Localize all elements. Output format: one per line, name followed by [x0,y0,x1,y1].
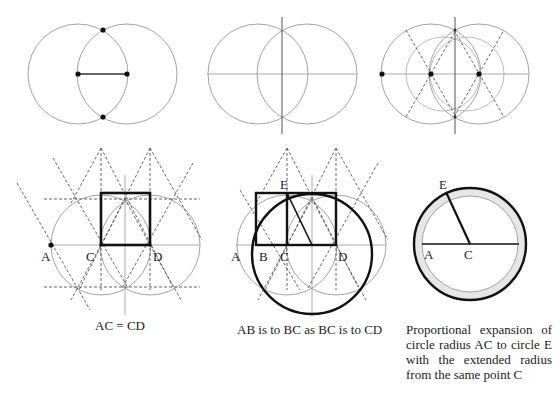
caption-proportional-expansion: Proportional expansion of circle radius … [406,322,552,382]
label-e: E [439,177,447,192]
point-bottom-intersection [100,114,105,119]
point-top-intersection [100,27,105,32]
point-right-center [124,71,129,76]
label-a: A [231,249,241,264]
label-c: C [280,249,289,264]
figure-proportional-expansion: E A C [414,177,526,300]
figure-square-construction: A C D [17,148,202,315]
label-d: D [338,249,347,264]
point-left-edge [379,71,384,76]
label-c: C [464,247,473,262]
point-a [48,242,53,247]
caption-golden-ratio: AB is to BC as BC is to CD [237,322,387,337]
point-left-center [428,71,433,76]
label-c: C [86,249,95,264]
label-a: A [41,249,51,264]
label-d: D [153,249,162,264]
figure-vesica-axes [207,17,357,134]
figure-golden-ratio-construction: E A B C D [231,148,388,316]
point-right-center [476,71,481,76]
label-b: B [259,249,268,264]
caption-square-construction: AC = CD [95,318,215,333]
label-e: E [280,177,288,192]
point-left-center [75,71,80,76]
figure-vesica-hexagon [379,17,529,134]
figure-vesica-basic [28,24,177,124]
label-a: A [424,247,434,262]
